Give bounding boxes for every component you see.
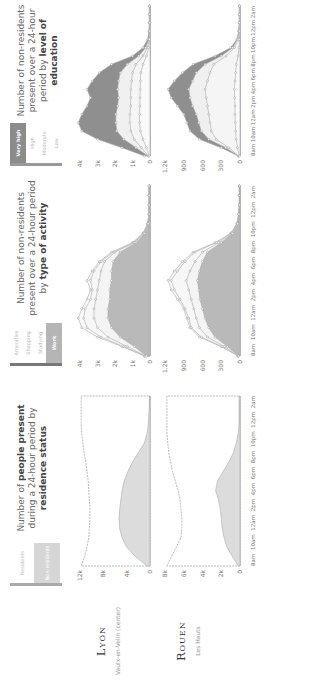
data-point (132, 55, 134, 57)
data-point (192, 105, 194, 107)
y-tick-label: 6k (180, 569, 187, 577)
data-point (177, 270, 179, 272)
data-point (129, 113, 131, 115)
area-series (216, 396, 240, 566)
area-chart: 02k4k6k8k (161, 396, 243, 577)
data-point (238, 38, 240, 40)
data-point (139, 97, 141, 99)
data-point (140, 147, 142, 149)
data-point (225, 147, 227, 149)
data-point (232, 232, 234, 234)
data-point (111, 63, 113, 65)
data-point (130, 105, 132, 107)
y-tick-label: 4k (123, 569, 130, 577)
area-chart: 03006009001.2k (161, 185, 243, 373)
data-point (139, 88, 141, 90)
data-point (86, 88, 88, 90)
data-point (123, 346, 125, 348)
x-tick-label: 2pm (250, 289, 256, 301)
data-point (214, 336, 216, 338)
y-tick-label: 1.2k (161, 359, 168, 373)
data-point (147, 223, 149, 225)
data-point (146, 355, 148, 357)
data-point (208, 113, 210, 115)
data-point (109, 289, 111, 291)
data-point (144, 232, 146, 234)
data-point (119, 336, 121, 338)
x-axis-labels: 8am10am12am2pm4pm6pm8pm10pm12pm2am (250, 6, 256, 156)
data-point (86, 105, 88, 107)
data-point (207, 105, 209, 107)
data-point (189, 130, 191, 132)
data-point (183, 113, 185, 115)
data-point (199, 298, 201, 300)
data-point (116, 130, 118, 132)
data-point (121, 147, 123, 149)
data-point (93, 308, 95, 310)
data-point (200, 130, 202, 132)
data-point (81, 308, 83, 310)
data-point (238, 30, 240, 32)
x-tick-label: 2am (250, 396, 256, 408)
data-point (139, 130, 141, 132)
data-point (209, 122, 211, 124)
x-tick-label: 8am (250, 144, 256, 156)
data-point (100, 336, 102, 338)
data-point (132, 72, 134, 74)
data-point (146, 147, 148, 149)
data-point (104, 261, 106, 263)
data-point (130, 88, 132, 90)
y-tick-label: 600 (199, 360, 206, 372)
data-point (100, 261, 102, 263)
data-point (86, 327, 88, 329)
data-point (135, 242, 137, 244)
data-point (238, 185, 240, 187)
data-point (198, 270, 200, 272)
data-point (188, 88, 190, 90)
y-tick-label: 12k (76, 569, 83, 581)
x-tick-label: 10am (250, 127, 256, 143)
data-point (167, 88, 169, 90)
x-tick-label: 6pm (250, 68, 256, 80)
y-tick-label: 1k (129, 359, 136, 367)
data-point (220, 242, 222, 244)
y-tick-label: 8k (161, 569, 168, 577)
x-tick-label: 12pm (250, 412, 256, 428)
data-point (100, 270, 102, 272)
data-point (97, 289, 99, 291)
data-point (213, 63, 215, 65)
data-point (237, 223, 239, 225)
data-point (90, 279, 92, 281)
data-point (184, 261, 186, 263)
x-tick-label: 2am (250, 6, 256, 18)
data-point (170, 279, 172, 281)
data-point (130, 130, 132, 132)
data-point (133, 138, 135, 140)
data-point (238, 194, 240, 196)
data-point (188, 289, 190, 291)
data-point (148, 185, 150, 187)
data-point (98, 279, 100, 281)
y-tick-label: 3k (94, 159, 101, 167)
x-tick-label: 6pm (250, 467, 256, 479)
data-point (107, 317, 109, 319)
data-point (109, 298, 111, 300)
data-point (90, 97, 92, 99)
data-point (238, 47, 240, 49)
data-point (84, 308, 86, 310)
data-point (118, 80, 120, 82)
y-tick-label: 2k (111, 159, 118, 167)
data-point (149, 5, 151, 7)
data-point (238, 213, 240, 215)
data-point (148, 47, 150, 49)
y-tick-label: 0 (236, 160, 243, 164)
x-tick-label: 8am (250, 344, 256, 356)
data-point (220, 55, 222, 57)
data-point (173, 289, 175, 291)
data-point (190, 327, 192, 329)
data-point (177, 105, 179, 107)
data-point (182, 72, 184, 74)
data-point (170, 289, 172, 291)
data-point (126, 346, 128, 348)
data-point (140, 72, 142, 74)
